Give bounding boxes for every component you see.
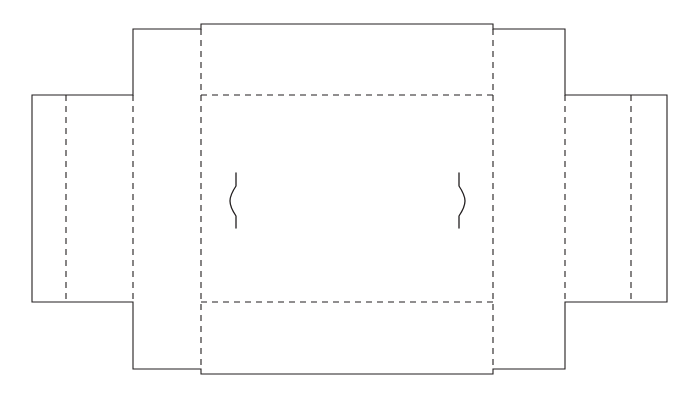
canvas-background bbox=[0, 0, 699, 396]
box-dieline-drawing bbox=[0, 0, 699, 396]
